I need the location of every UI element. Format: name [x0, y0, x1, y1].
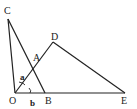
label-d: D — [51, 31, 58, 42]
angle-a-label: a — [20, 72, 25, 82]
angle-b-arc — [29, 88, 31, 93]
segment-de — [53, 42, 125, 93]
geometry-diagram: C O B E D A a b — [0, 0, 137, 109]
label-e: E — [121, 95, 127, 106]
angle-b-label: b — [30, 98, 35, 108]
label-c: C — [4, 5, 11, 16]
label-b: B — [45, 95, 52, 106]
label-o: O — [9, 95, 16, 106]
label-a-point: A — [33, 52, 41, 63]
segment-od — [15, 42, 53, 93]
